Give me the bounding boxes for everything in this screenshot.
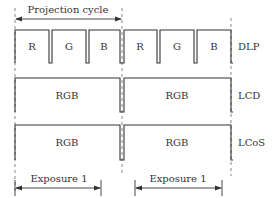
guide-lines [15, 8, 231, 194]
dlp-waveform [15, 30, 233, 63]
projection-cycle-label: Projection cycle [28, 4, 109, 15]
exposure-arrow-2: Exposure 1 [135, 173, 222, 196]
lcos-waveform [15, 125, 233, 160]
lcos-segment-1: RGB [56, 137, 79, 148]
dlp-segment-r2: R [136, 41, 144, 52]
lcd-waveform [15, 78, 233, 112]
dlp-segment-g2: G [173, 41, 181, 52]
lcd-row: RGB RGB LCD [15, 78, 260, 112]
exposure-1-label: Exposure 1 [30, 173, 87, 184]
timing-diagram: Projection cycle R G B R G B DLP RGB RGB… [0, 0, 273, 198]
lcd-row-label: LCD [238, 90, 260, 101]
lcos-row-label: LCoS [238, 137, 265, 148]
dlp-row-label: DLP [238, 41, 260, 52]
projection-cycle-arrow: Projection cycle [16, 4, 121, 19]
lcd-segment-1: RGB [56, 90, 79, 101]
dlp-segment-r: R [28, 41, 36, 52]
dlp-segment-b2: B [210, 41, 217, 52]
dlp-row: R G B R G B DLP [15, 30, 260, 63]
dlp-segment-g: G [65, 41, 73, 52]
lcd-segment-2: RGB [166, 90, 189, 101]
exposure-2-label: Exposure 1 [149, 173, 206, 184]
lcos-segment-2: RGB [166, 137, 189, 148]
exposure-arrow-1: Exposure 1 [15, 173, 101, 196]
lcos-row: RGB RGB LCoS [15, 125, 265, 160]
dlp-segment-b: B [100, 41, 107, 52]
